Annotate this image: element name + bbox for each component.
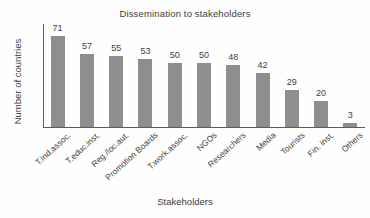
- bar-value-label: 42: [249, 60, 277, 71]
- bar-chart-figure: Dissemination to stakeholders Number of …: [0, 0, 370, 218]
- bar-value-label: 53: [131, 46, 159, 57]
- bar-value-label: 20: [307, 88, 335, 99]
- bar[interactable]: [343, 123, 357, 127]
- bar[interactable]: [256, 73, 270, 127]
- bar-value-label: 48: [219, 52, 247, 63]
- bar[interactable]: [80, 54, 94, 127]
- bar-value-label: 55: [102, 43, 130, 54]
- bar-group[interactable]: 50: [161, 24, 189, 127]
- bar-group[interactable]: 50: [190, 24, 218, 127]
- x-axis-tick-labels: T.ind.assoc.T.educ.inst.Reg./loc.aut.Pro…: [43, 128, 365, 188]
- bar-value-label: 57: [73, 41, 101, 52]
- bar-value-label: 50: [161, 50, 189, 61]
- bar[interactable]: [138, 59, 152, 127]
- bar-group[interactable]: 3: [336, 24, 364, 127]
- bar-group[interactable]: 42: [249, 24, 277, 127]
- chart-title: Dissemination to stakeholders: [0, 8, 370, 19]
- bar-group[interactable]: 20: [307, 24, 335, 127]
- bar[interactable]: [314, 101, 328, 127]
- bar[interactable]: [285, 90, 299, 127]
- x-axis-label: Stakeholders: [0, 196, 370, 207]
- bar[interactable]: [197, 63, 211, 127]
- bar-group[interactable]: 48: [219, 24, 247, 127]
- bar-value-label: 71: [44, 23, 72, 34]
- bar-group[interactable]: 29: [278, 24, 306, 127]
- plot-area: 715755535050484229203: [43, 24, 365, 128]
- bar-group[interactable]: 53: [131, 24, 159, 127]
- y-axis-label: Number of countries: [12, 27, 23, 137]
- bar-value-label: 3: [336, 110, 364, 121]
- bar-value-label: 50: [190, 50, 218, 61]
- bar-value-label: 29: [278, 77, 306, 88]
- bar-group[interactable]: 55: [102, 24, 130, 127]
- bar-group[interactable]: 71: [44, 24, 72, 127]
- bar[interactable]: [168, 63, 182, 127]
- bar[interactable]: [51, 36, 65, 127]
- bar-group[interactable]: 57: [73, 24, 101, 127]
- bar[interactable]: [226, 65, 240, 127]
- bar[interactable]: [109, 56, 123, 127]
